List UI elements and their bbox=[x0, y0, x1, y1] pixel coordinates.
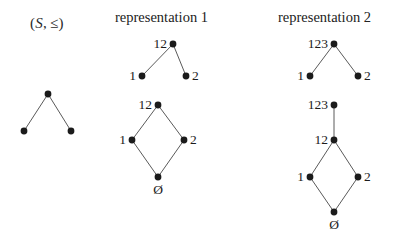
node-dot bbox=[170, 41, 177, 48]
edge bbox=[334, 44, 358, 76]
diagram-rep2-lattice bbox=[307, 102, 362, 216]
edge bbox=[24, 94, 48, 131]
node-dot bbox=[331, 137, 338, 144]
node-dot bbox=[139, 73, 146, 80]
node-label: 12 bbox=[154, 37, 168, 51]
edge bbox=[158, 140, 184, 177]
edge bbox=[334, 177, 358, 212]
node-dot bbox=[155, 174, 162, 181]
node-dot bbox=[155, 102, 162, 109]
edge bbox=[173, 44, 186, 76]
edge bbox=[158, 105, 184, 140]
node-label: 123 bbox=[308, 98, 328, 112]
diagram-graphics bbox=[21, 41, 362, 216]
node-label: 1 bbox=[297, 170, 304, 184]
node-dot bbox=[129, 137, 136, 144]
node-dot bbox=[21, 128, 28, 135]
node-dot bbox=[183, 73, 190, 80]
node-dot bbox=[331, 102, 338, 109]
node-dot bbox=[68, 128, 75, 135]
diagram-rep1-lattice bbox=[129, 102, 188, 181]
node-dot bbox=[355, 174, 362, 181]
node-label: 12 bbox=[315, 133, 329, 147]
edge bbox=[310, 177, 334, 212]
node-label: 12 bbox=[139, 98, 153, 112]
diagram-poset-hasse bbox=[21, 91, 75, 135]
node-dot bbox=[181, 137, 188, 144]
edge bbox=[48, 94, 71, 131]
node-label: 2 bbox=[192, 69, 199, 83]
edge bbox=[132, 140, 158, 177]
node-label: Ø bbox=[329, 218, 339, 232]
node-label: 1 bbox=[297, 69, 304, 83]
node-label: 123 bbox=[308, 37, 328, 51]
node-dot bbox=[307, 73, 314, 80]
node-dot bbox=[355, 73, 362, 80]
node-label: 2 bbox=[190, 133, 197, 147]
node-dot bbox=[45, 91, 52, 98]
node-dot bbox=[331, 41, 338, 48]
figure-canvas: (S, ≤) representation 1 representation 2… bbox=[0, 0, 397, 241]
node-label: Ø bbox=[153, 183, 163, 197]
node-dot bbox=[307, 174, 314, 181]
node-dot bbox=[331, 209, 338, 216]
edge bbox=[334, 140, 358, 177]
hasse-diagram-edges-and-nodes bbox=[0, 0, 397, 241]
node-label: 1 bbox=[119, 133, 126, 147]
node-label: 1 bbox=[129, 69, 136, 83]
node-label: 2 bbox=[364, 69, 371, 83]
node-label: 2 bbox=[364, 170, 371, 184]
